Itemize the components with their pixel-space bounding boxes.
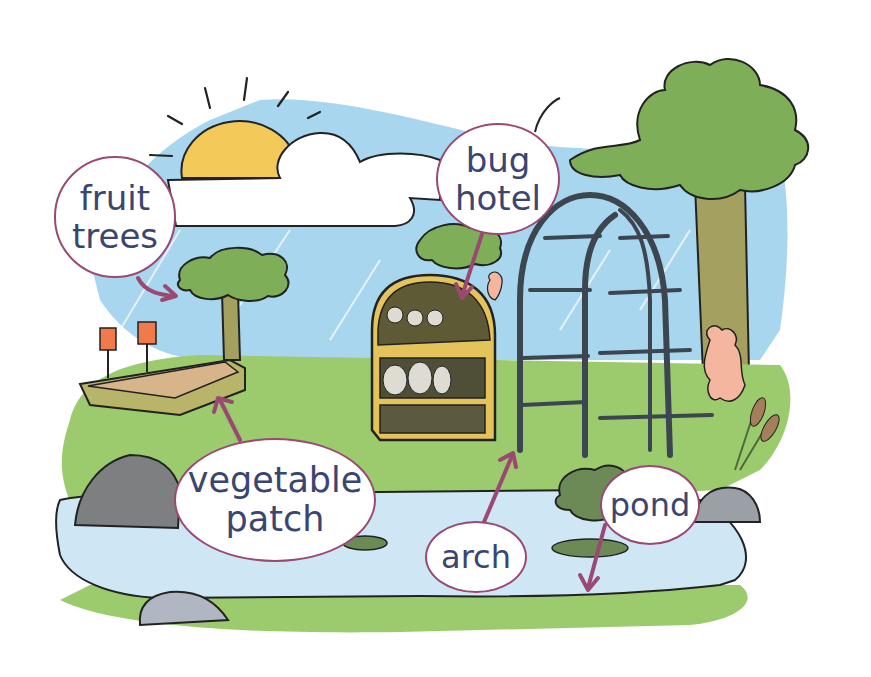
label-vegetable-patch-line2: patch	[226, 502, 325, 537]
label-vegetable-patch-line1: vegetable	[188, 463, 363, 498]
label-arch: arch	[425, 521, 527, 593]
label-bug-hotel: bug hotel	[436, 123, 560, 235]
label-bug-hotel-line2: hotel	[455, 181, 541, 215]
label-fruit-trees-line2: trees	[72, 219, 158, 253]
label-fruit-trees: fruit trees	[54, 156, 176, 278]
bug-hotel	[372, 275, 495, 440]
label-pond-line1: pond	[610, 489, 690, 521]
label-vegetable-patch: vegetable patch	[174, 438, 376, 562]
label-pond: pond	[600, 465, 700, 545]
label-arch-line1: arch	[441, 541, 511, 573]
label-fruit-trees-line1: fruit	[80, 181, 150, 215]
label-bug-hotel-line1: bug	[466, 143, 531, 177]
